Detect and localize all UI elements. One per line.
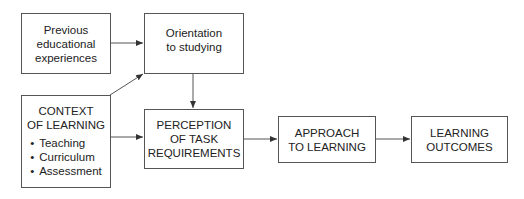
node-label-line: LEARNING bbox=[430, 126, 489, 140]
node-previous-educational-experiences: Previous educational experiences bbox=[21, 13, 111, 74]
node-context-of-learning: CONTEXT OF LEARNING Teaching Curriculum … bbox=[21, 95, 111, 188]
node-label-line: PERCEPTION bbox=[157, 118, 232, 132]
node-label-line: Previous bbox=[44, 23, 89, 37]
node-label-line: REQUIREMENTS bbox=[148, 146, 241, 160]
node-learning-outcomes: LEARNING OUTCOMES bbox=[411, 116, 508, 163]
node-label-line: Orientation bbox=[166, 26, 222, 40]
node-label-line: APPROACH bbox=[295, 126, 360, 140]
arrow-context-to-orientation bbox=[110, 74, 143, 95]
node-label-line: to studying bbox=[166, 40, 222, 54]
node-label-line: CONTEXT bbox=[39, 104, 94, 118]
node-label-line: OUTCOMES bbox=[426, 140, 492, 154]
node-label-line: OF TASK bbox=[170, 132, 218, 146]
context-factor-curriculum: Curriculum bbox=[30, 150, 102, 164]
node-label-line: experiences bbox=[35, 51, 97, 65]
node-label-line: TO LEARNING bbox=[288, 140, 366, 154]
node-label-line: educational bbox=[37, 37, 96, 51]
node-approach-to-learning: APPROACH TO LEARNING bbox=[278, 116, 376, 163]
node-perception-of-task-requirements: PERCEPTION OF TASK REQUIREMENTS bbox=[144, 109, 244, 169]
context-factor-list: Teaching Curriculum Assessment bbox=[30, 136, 102, 178]
node-label-line: OF LEARNING bbox=[27, 118, 105, 132]
context-factor-assessment: Assessment bbox=[30, 164, 102, 178]
context-factor-teaching: Teaching bbox=[30, 136, 102, 150]
node-orientation-to-studying: Orientation to studying bbox=[144, 13, 244, 74]
